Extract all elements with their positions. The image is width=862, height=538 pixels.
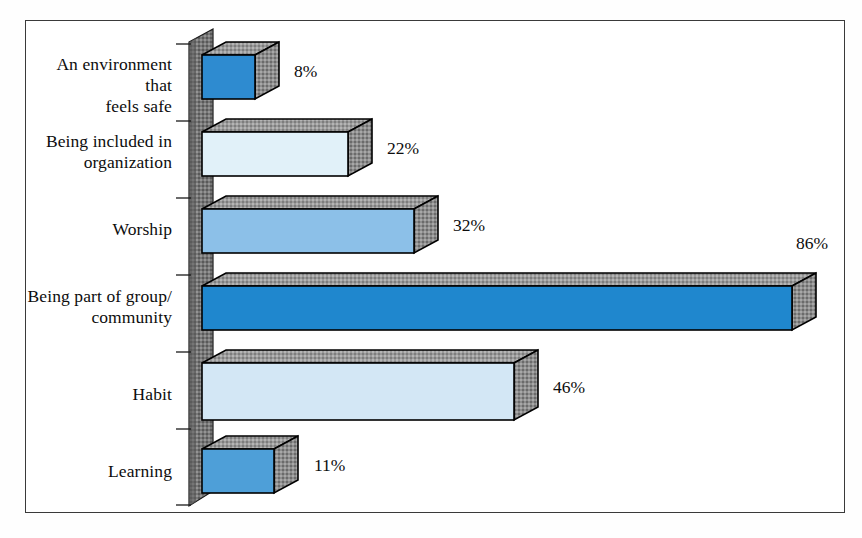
- category-label-1: Being included in organization: [26, 131, 172, 173]
- value-label-5: 11%: [314, 456, 345, 475]
- bar-being-part-of-group-community[interactable]: [202, 273, 816, 330]
- category-label-5: Learning: [26, 461, 172, 482]
- value-label-1: 22%: [387, 139, 419, 158]
- category-label-2: Worship: [26, 219, 172, 240]
- value-label-0: 8%: [294, 62, 317, 81]
- chart-frame: An environment that feels safe Being inc…: [25, 20, 845, 513]
- bar-habit[interactable]: [202, 350, 538, 420]
- value-label-3: 86%: [796, 234, 828, 253]
- plot-area: An environment that feels safe Being inc…: [26, 21, 846, 514]
- bar-worship[interactable]: [202, 196, 438, 253]
- value-label-2: 32%: [453, 216, 485, 235]
- chart-canvas: An environment that feels safe Being inc…: [0, 0, 862, 538]
- bar-being-included-in-organization[interactable]: [202, 119, 372, 176]
- category-label-3: Being part of group/ community: [26, 286, 172, 328]
- bar-an-environment-that-feels-safe[interactable]: [202, 42, 279, 99]
- value-label-4: 46%: [553, 378, 585, 397]
- bar-learning[interactable]: [202, 436, 298, 493]
- category-label-0: An environment that feels safe: [26, 54, 172, 117]
- category-label-4: Habit: [26, 384, 172, 405]
